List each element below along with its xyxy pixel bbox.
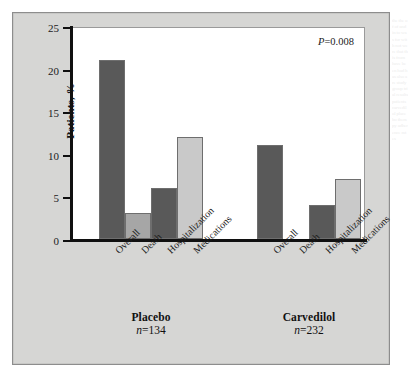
y-tick-label: 10 bbox=[48, 150, 59, 162]
y-tick-label: 25 bbox=[48, 22, 59, 34]
p-value-annotation: P=0.008 bbox=[318, 36, 354, 47]
y-tick-label: 20 bbox=[48, 65, 59, 77]
x-axis-line bbox=[70, 239, 367, 242]
group-label-carvedilol: Carvediloln=232 bbox=[249, 311, 369, 336]
y-tick-label: 0 bbox=[54, 235, 60, 247]
plot-wrapper: P=0.008 0510152025 Patients, % OverallDe… bbox=[71, 27, 367, 255]
y-tick-label: 15 bbox=[48, 107, 59, 119]
group-sample-size: n=232 bbox=[249, 324, 369, 336]
y-tick-mark: 25 bbox=[63, 27, 70, 29]
bar-carvedilol-overall bbox=[257, 145, 283, 239]
page-bleed-text: the the of of and in to was for with not… bbox=[392, 18, 408, 268]
bar-placebo-overall bbox=[99, 60, 125, 239]
group-n-value: =134 bbox=[142, 324, 166, 336]
group-n-value: =232 bbox=[300, 324, 324, 336]
y-axis-title: Patients, % bbox=[64, 66, 76, 156]
figure-page: the the of of and in to was for with not… bbox=[0, 0, 408, 380]
y-tick-mark: 5 bbox=[63, 197, 70, 199]
p-value-number: =0.008 bbox=[324, 36, 354, 47]
group-sample-size: n=134 bbox=[91, 324, 211, 336]
figure-frame: P=0.008 0510152025 Patients, % OverallDe… bbox=[12, 12, 390, 365]
plot-area: P=0.008 bbox=[71, 27, 365, 240]
group-label-placebo: Placebon=134 bbox=[91, 311, 211, 336]
group-name: Placebo bbox=[91, 311, 211, 323]
y-tick-mark: 0 bbox=[63, 240, 70, 242]
group-name: Carvedilol bbox=[249, 311, 369, 323]
y-tick-label: 5 bbox=[54, 192, 60, 204]
